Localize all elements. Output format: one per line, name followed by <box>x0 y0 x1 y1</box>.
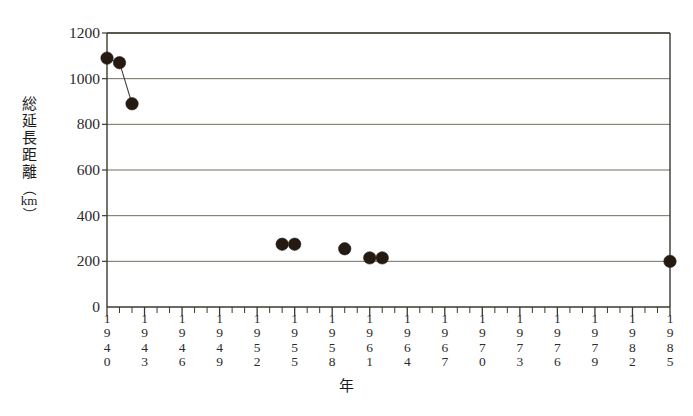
x-axis-tick-label: 1943 <box>137 312 153 369</box>
x-tick-digit: 1 <box>287 312 303 326</box>
data-point-marker[interactable] <box>376 252 388 264</box>
data-point-marker[interactable] <box>113 56 125 68</box>
x-tick-digit: 6 <box>174 355 190 369</box>
x-tick-digit: 1 <box>362 355 378 369</box>
data-point-marker[interactable] <box>664 255 676 267</box>
x-tick-digit: 9 <box>137 326 153 340</box>
x-axis-tick-label: 1985 <box>662 312 678 369</box>
x-axis-title: 年 <box>0 374 693 395</box>
x-tick-digit: 1 <box>174 312 190 326</box>
x-tick-digit: 5 <box>662 355 678 369</box>
x-tick-digit: 1 <box>587 312 603 326</box>
x-tick-digit: 9 <box>662 326 678 340</box>
x-tick-digit: 5 <box>287 355 303 369</box>
x-tick-digit: 1 <box>437 312 453 326</box>
x-tick-digit: 9 <box>362 326 378 340</box>
x-tick-digit: 9 <box>474 326 490 340</box>
x-axis-tick-label: 1964 <box>399 312 415 369</box>
x-tick-digit: 9 <box>99 326 115 340</box>
x-tick-digit: 4 <box>174 341 190 355</box>
x-tick-digit: 4 <box>212 341 228 355</box>
x-tick-digit: 5 <box>249 341 265 355</box>
x-tick-digit: 1 <box>662 312 678 326</box>
x-tick-digit: 7 <box>474 341 490 355</box>
x-tick-digit: 4 <box>99 341 115 355</box>
x-axis-tick-label: 1976 <box>549 312 565 369</box>
x-tick-digit: 9 <box>324 326 340 340</box>
x-tick-digit: 9 <box>624 326 640 340</box>
x-tick-digit: 0 <box>474 355 490 369</box>
x-tick-digit: 1 <box>512 312 528 326</box>
x-tick-digit: 8 <box>324 355 340 369</box>
chart-figure: 総 延 長 距 離 （ km ） 120010008006004002000 1… <box>0 0 693 416</box>
x-axis-tick-label: 1982 <box>624 312 640 369</box>
x-tick-digit: 9 <box>399 326 415 340</box>
x-tick-digit: 2 <box>249 355 265 369</box>
x-axis-tick-label: 1967 <box>437 312 453 369</box>
x-tick-digit: 7 <box>512 341 528 355</box>
x-axis-tick-label: 1979 <box>587 312 603 369</box>
x-axis-tick-label: 1952 <box>249 312 265 369</box>
x-tick-digit: 1 <box>324 312 340 326</box>
x-tick-digit: 3 <box>137 355 153 369</box>
x-tick-digit: 1 <box>99 312 115 326</box>
x-tick-digit: 9 <box>437 326 453 340</box>
x-axis-tick-label: 1970 <box>474 312 490 369</box>
x-tick-digit: 9 <box>249 326 265 340</box>
x-tick-digit: 4 <box>137 341 153 355</box>
x-axis-tick-label: 1958 <box>324 312 340 369</box>
x-tick-digit: 1 <box>212 312 228 326</box>
data-point-marker[interactable] <box>126 98 138 110</box>
x-tick-digit: 1 <box>399 312 415 326</box>
x-tick-digit: 9 <box>212 355 228 369</box>
x-tick-digit: 1 <box>549 312 565 326</box>
x-axis-tick-label: 1940 <box>99 312 115 369</box>
x-tick-digit: 9 <box>174 326 190 340</box>
x-tick-digit: 9 <box>512 326 528 340</box>
x-tick-digit: 5 <box>324 341 340 355</box>
x-axis-tick-label: 1955 <box>287 312 303 369</box>
x-tick-digit: 1 <box>249 312 265 326</box>
x-tick-digit: 1 <box>362 312 378 326</box>
x-tick-digit: 6 <box>399 341 415 355</box>
x-tick-digit: 9 <box>587 326 603 340</box>
x-axis-tick-label: 1946 <box>174 312 190 369</box>
x-tick-digit: 5 <box>287 341 303 355</box>
x-tick-digit: 1 <box>137 312 153 326</box>
x-tick-digit: 7 <box>549 341 565 355</box>
x-axis-tick-label: 1961 <box>362 312 378 369</box>
x-tick-digit: 9 <box>287 326 303 340</box>
x-tick-digit: 6 <box>362 341 378 355</box>
x-tick-digit: 7 <box>587 341 603 355</box>
x-tick-digit: 9 <box>212 326 228 340</box>
x-axis-tick-label: 1973 <box>512 312 528 369</box>
data-point-marker[interactable] <box>364 252 376 264</box>
x-tick-digit: 6 <box>437 341 453 355</box>
x-tick-digit: 9 <box>587 355 603 369</box>
x-tick-digit: 7 <box>437 355 453 369</box>
data-point-marker[interactable] <box>276 238 288 250</box>
x-tick-digit: 3 <box>512 355 528 369</box>
x-tick-digit: 1 <box>474 312 490 326</box>
x-tick-digit: 8 <box>624 341 640 355</box>
x-tick-digit: 6 <box>549 355 565 369</box>
data-point-marker[interactable] <box>101 52 113 64</box>
data-point-marker[interactable] <box>339 243 351 255</box>
x-tick-digit: 2 <box>624 355 640 369</box>
x-axis-tick-label: 1949 <box>212 312 228 369</box>
data-point-marker[interactable] <box>288 238 300 250</box>
x-tick-digit: 9 <box>549 326 565 340</box>
x-tick-digit: 8 <box>662 341 678 355</box>
x-tick-digit: 0 <box>99 355 115 369</box>
x-tick-digit: 1 <box>624 312 640 326</box>
x-tick-digit: 4 <box>399 355 415 369</box>
